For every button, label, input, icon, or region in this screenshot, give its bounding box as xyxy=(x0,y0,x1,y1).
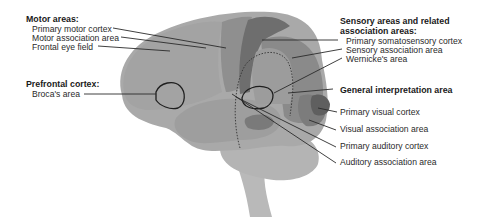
label-auditory-association-area: Auditory association area xyxy=(340,157,437,167)
frontal-lobe xyxy=(123,21,222,110)
prefrontal-cortex-heading: Prefrontal cortex: xyxy=(26,79,99,90)
label-frontal-eye-field: Frontal eye field xyxy=(32,42,93,52)
label-wernickes-area: Wernicke's area xyxy=(346,54,407,64)
general-interpretation-heading: General interpretation area xyxy=(340,85,452,96)
sensory-areas-heading-line1: Sensory areas and related xyxy=(340,16,450,27)
brain-diagram: Motor areas: Primary motor cortex Motor … xyxy=(0,0,485,217)
motor-areas-heading: Motor areas: xyxy=(26,14,79,25)
label-primary-visual-cortex: Primary visual cortex xyxy=(340,107,420,117)
label-primary-auditory-cortex: Primary auditory cortex xyxy=(340,141,428,151)
sensory-areas-heading-line2: association areas: xyxy=(340,26,417,37)
label-brocas-area: Broca's area xyxy=(32,89,80,99)
label-visual-association-area: Visual association area xyxy=(340,124,428,134)
